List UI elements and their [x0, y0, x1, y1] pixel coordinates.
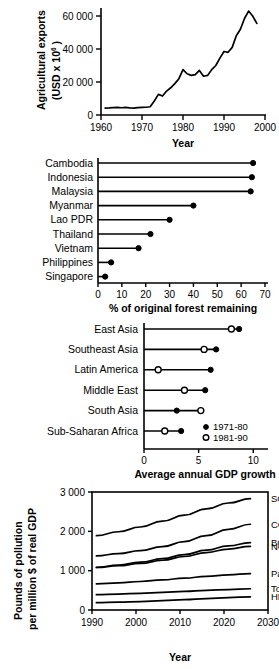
forest-value-dot — [148, 231, 153, 236]
gdp-category-label: Middle East — [83, 384, 138, 396]
pollution-series-label-NO2: NO2 — [271, 541, 279, 554]
gdp-category-label: Southeast Asia — [68, 343, 138, 355]
y-ticklabel-60000: 60 000 — [62, 11, 93, 22]
legend-marker-1971-80 — [204, 425, 209, 430]
forest-x-ticklabel: 40 — [188, 289, 200, 300]
pollution-series-group — [96, 499, 250, 603]
legend-label: 1981-90 — [213, 432, 248, 443]
gdp-dot-1981-90 — [181, 387, 187, 393]
y-ticklabel-40000: 40 000 — [62, 44, 93, 55]
gdp-x-ticklabel: 5 — [196, 455, 202, 466]
forest-x-ticklabel: 30 — [164, 289, 176, 300]
pollution-x-ticklabel: 2010 — [169, 617, 192, 628]
dumbbell-row: East Asia — [94, 323, 241, 335]
forest-value-dot — [248, 189, 253, 194]
forest-x-ticklabel: 10 — [116, 289, 128, 300]
forest-category-label: Lao PDR — [50, 213, 93, 225]
pollution-x-ticklabel: 1990 — [81, 617, 104, 628]
pollution-x-ticklabel: 2020 — [213, 617, 236, 628]
pollution-series-label-CO: CO — [271, 519, 279, 530]
forest-category-label: Philippines — [42, 256, 93, 268]
pollution-series-label-HM: HM — [271, 591, 279, 602]
y-axis-title-line1: Pounds of pollution — [12, 521, 24, 620]
forest-value-dot — [191, 203, 196, 208]
pollution-series-Toxic — [96, 589, 250, 595]
lollipop-row: Lao PDR — [50, 213, 172, 225]
gdp-category-label: Sub-Saharan Africa — [47, 425, 138, 437]
gdp-category-label: East Asia — [94, 323, 138, 335]
forest-x-ticklabel: 60 — [236, 289, 248, 300]
pollution-x-ticklabel: 2030 — [257, 617, 279, 628]
forest-x-ticklabel: 50 — [212, 289, 224, 300]
lollipop-row: Cambodia — [45, 157, 256, 169]
forest-category-label: Malaysia — [52, 185, 94, 197]
forest-rows-group: CambodiaIndonesiaMalaysiaMyanmarLao PDRT… — [42, 157, 255, 283]
y-axis-title-exports: Agricultural exports (USD x 106 ) — [35, 10, 62, 110]
pollution-series-label-SO2: SO2 — [271, 493, 279, 506]
forest-xticks-group: 010203040506070 — [95, 283, 271, 300]
pollution-series-Part. — [96, 574, 250, 584]
x-ticklabel-1990: 1990 — [213, 122, 236, 133]
dumbbell-row: Sub-Saharan Africa — [47, 425, 184, 437]
chart-agricultural-exports: Agricultural exports (USD x 106 ) 0 20 0… — [0, 0, 279, 155]
gdp-dot-1971-80 — [179, 428, 184, 433]
forest-category-label: Vietnam — [55, 242, 94, 254]
lollipop-row: Philippines — [42, 256, 114, 268]
gdp-xticks-group: 0510 — [141, 449, 259, 466]
legend-marker-1981-90 — [203, 435, 209, 441]
x-axis-title-exports: Year — [172, 137, 194, 149]
y-axis-title-line2: (USD x 106 ) — [50, 41, 62, 100]
pollution-yticks-group: 01 0002 0003 000 — [60, 487, 92, 616]
forest-category-label: Myanmar — [49, 199, 93, 211]
pollution-y-ticklabel: 0 — [79, 605, 85, 616]
lollipop-row: Myanmar — [49, 199, 196, 211]
series-line-agricultural-exports — [105, 11, 257, 108]
pollution-intensity-svg: Pounds of pollution per million $ of rea… — [0, 485, 279, 669]
forest-value-dot — [167, 217, 172, 222]
forest-category-label: Indonesia — [47, 171, 93, 183]
pollution-series-HM — [96, 597, 250, 603]
dumbbell-row: South Asia — [88, 404, 204, 416]
gdp-x-ticklabel: 0 — [141, 455, 147, 466]
gdp-dot-1981-90 — [228, 326, 234, 332]
x-axis-title-gdp: Average annual GDP growth — [134, 468, 275, 480]
lollipop-row: Thailand — [53, 228, 153, 240]
forest-value-dot — [109, 260, 114, 265]
forest-value-dot — [250, 160, 255, 165]
x-axis-title-forest: % of original forest remaining — [109, 302, 257, 314]
gdp-category-label: South Asia — [88, 404, 138, 416]
chart-gdp-growth: East AsiaSoutheast AsiaLatin AmericaMidd… — [0, 320, 279, 485]
forest-x-ticklabel: 0 — [95, 289, 101, 300]
x-ticklabel-1980: 1980 — [172, 122, 195, 133]
y-axis-title-line1: Agricultural exports — [35, 10, 47, 110]
forest-x-ticklabel: 70 — [259, 289, 271, 300]
gdp-category-label: Latin America — [74, 363, 138, 375]
x-ticklabel-1970: 1970 — [131, 122, 154, 133]
pollution-series-CO — [96, 524, 250, 556]
chart-pollution-intensity: Pounds of pollution per million $ of rea… — [0, 485, 279, 669]
pollution-y-ticklabel: 2 000 — [60, 526, 85, 537]
pollution-xticks-group: 19902000201020202030 — [81, 610, 279, 628]
gdp-dot-1981-90 — [201, 346, 207, 352]
forest-remaining-svg: CambodiaIndonesiaMalaysiaMyanmarLao PDRT… — [0, 155, 279, 320]
agricultural-exports-svg: Agricultural exports (USD x 106 ) 0 20 0… — [0, 0, 279, 155]
forest-x-ticklabel: 20 — [140, 289, 152, 300]
x-axis-title-pollution: Year — [169, 651, 191, 663]
lollipop-row: Indonesia — [47, 171, 254, 183]
forest-category-label: Thailand — [53, 228, 93, 240]
forest-value-dot — [136, 246, 141, 251]
pollution-series-label-Part.: Part. — [271, 568, 279, 579]
pollution-plot-frame — [92, 492, 268, 610]
dumbbell-row: Middle East — [83, 384, 208, 396]
gdp-dot-1971-80 — [208, 367, 213, 372]
gdp-legend: 1971-801981-90 — [203, 421, 248, 443]
gdp-dot-1981-90 — [162, 428, 168, 434]
pollution-series-BOD — [96, 543, 250, 568]
pollution-y-ticklabel: 3 000 — [60, 487, 85, 498]
gdp-dot-1971-80 — [203, 388, 208, 393]
legend-label: 1971-80 — [213, 421, 248, 432]
pollution-x-ticklabel: 2000 — [125, 617, 148, 628]
x-ticklabel-1960: 1960 — [90, 122, 113, 133]
gdp-dot-1971-80 — [236, 326, 241, 331]
y-axis-title-pollution: Pounds of pollution per million $ of rea… — [12, 508, 38, 630]
